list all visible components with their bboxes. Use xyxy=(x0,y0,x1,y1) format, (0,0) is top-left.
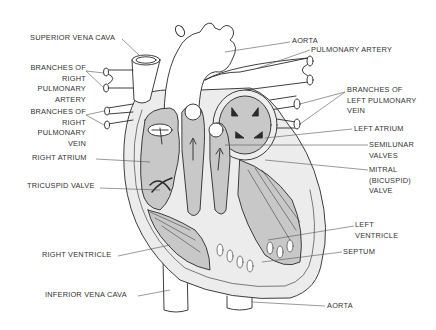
label-mitral-valve: MITRAL (BICUSPID) VALVE xyxy=(369,165,411,197)
label-left-atrium: LEFT ATRIUM xyxy=(354,124,404,135)
label-right-atrium: RIGHT ATRIUM xyxy=(32,153,87,164)
label-left-ventricle: LEFT VENTRICLE xyxy=(355,220,398,241)
label-septum: SEPTUM xyxy=(343,247,375,258)
label-aorta-bottom: AORTA xyxy=(327,301,353,312)
label-inferior-vena-cava: INFERIOR VENA CAVA xyxy=(45,290,127,301)
label-branches-right-pulmonary-artery: BRANCHES OF RIGHT PULMONARY ARTERY xyxy=(20,63,86,105)
label-superior-vena-cava: SUPERIOR VENA CAVA xyxy=(30,33,115,44)
label-semilunar-valves: SEMILUNAR VALVES xyxy=(369,140,414,161)
heart-diagram: SUPERIOR VENA CAVA BRANCHES OF RIGHT PUL… xyxy=(0,0,436,330)
label-branches-left-pulmonary-vein: BRANCHES OF LEFT PULMONARY VEIN xyxy=(347,85,416,117)
label-pulmonary-artery: PULMONARY ARTERY xyxy=(311,45,392,56)
label-right-ventricle: RIGHT VENTRICLE xyxy=(42,250,111,261)
label-branches-right-pulmonary-vein: BRANCHES OF RIGHT PULMONARY VEIN xyxy=(20,107,86,149)
label-tricuspid-valve: TRICUSPID VALVE xyxy=(27,181,95,192)
